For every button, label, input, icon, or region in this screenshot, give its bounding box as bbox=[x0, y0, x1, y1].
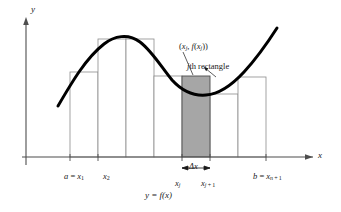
figure-caption: y = f(x) bbox=[145, 191, 172, 200]
rectangle-1 bbox=[70, 72, 98, 157]
delta-x-arrow-left bbox=[182, 166, 188, 170]
x-axis-label: x bbox=[318, 151, 322, 160]
tick-label-b: b = xn + 1 bbox=[253, 172, 282, 181]
y-axis-arrowhead bbox=[23, 17, 29, 25]
rectangle-4 bbox=[154, 76, 182, 157]
point-annotation: (xj, f(xj)) bbox=[179, 42, 208, 51]
riemann-sum-figure: y x (xj, f(xj)) jth rectangle Δx a = x1 … bbox=[0, 0, 341, 212]
rectangle-2 bbox=[98, 39, 126, 157]
tick-label-x2: x2 bbox=[103, 172, 110, 181]
tick-label-xj: xj bbox=[175, 179, 180, 188]
delta-x-arrow-right bbox=[204, 166, 210, 170]
figure-canvas bbox=[0, 0, 341, 212]
tick-label-a: a = x1 bbox=[64, 172, 84, 181]
tick-label-xj-plus-1: xj + 1 bbox=[201, 179, 215, 188]
rectangle-3 bbox=[126, 39, 154, 157]
riemann-rectangles bbox=[70, 39, 266, 157]
rectangle-7 bbox=[238, 77, 266, 157]
jth-rectangle-annotation: jth rectangle bbox=[187, 62, 229, 71]
delta-x-label: Δx bbox=[189, 162, 198, 171]
y-axis-label: y bbox=[31, 5, 35, 14]
jth-rectangle-shaded bbox=[182, 76, 210, 157]
rectangle-6 bbox=[210, 94, 238, 157]
x-axis-arrowhead bbox=[305, 154, 313, 160]
